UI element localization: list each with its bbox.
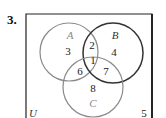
region-a-and-b: 2 xyxy=(89,39,95,51)
outside-region-value: 5 xyxy=(141,107,147,118)
region-b-only: 4 xyxy=(111,46,117,58)
set-a-label: A xyxy=(66,29,74,41)
universe-label: U xyxy=(29,107,38,118)
region-a-and-c: 6 xyxy=(77,65,83,77)
set-c-label: C xyxy=(89,97,97,109)
region-b-and-c: 7 xyxy=(103,65,109,77)
region-c-only: 8 xyxy=(90,82,96,94)
region-a-b-c: 1 xyxy=(90,54,96,66)
set-b-label: B xyxy=(112,29,119,41)
region-a-only: 3 xyxy=(65,45,71,57)
venn-diagram: A B C 3 2 4 1 6 7 8 U 5 xyxy=(0,0,166,118)
